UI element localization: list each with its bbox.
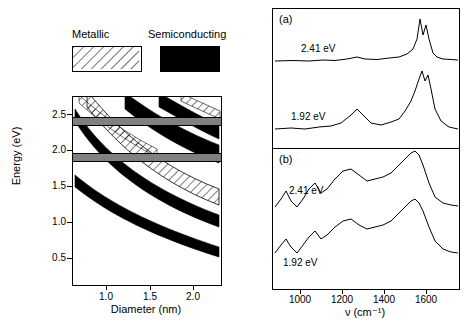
raman-xaxis-label: ν (cm⁻¹) (272, 306, 458, 319)
legend-metallic-swatch (72, 46, 142, 72)
raman-xtick-1600: 1600 (413, 294, 439, 305)
xtick-2.0: 2.0 (180, 291, 206, 302)
kataura-plot-panel: Metallic Semiconducting 2.5 2.0 1.5 1.0 … (0, 0, 232, 331)
kataura-xaxis-label: Diameter (nm) (72, 303, 220, 315)
xtick-1.0: 1.0 (93, 291, 119, 302)
panel-a-trace-label-241: 2.41 eV (301, 43, 335, 54)
laser-line-1.92eV (73, 153, 221, 162)
raman-panel-a: (a) 2.41 eV 1.92 eV (272, 8, 460, 150)
raman-xtick-1200: 1200 (329, 294, 355, 305)
kataura-plot-area (72, 96, 222, 286)
raman-spectra-panel: Raman intensity (arb. units) (a) 2.41 eV… (236, 0, 466, 331)
ytick-0.5: 0.5 (40, 252, 66, 263)
ytick-2.5: 2.5 (40, 109, 66, 120)
legend-semiconducting-swatch (160, 46, 220, 72)
panel-a-trace-label-192: 1.92 eV (291, 111, 325, 122)
ytick-1.5: 1.5 (40, 180, 66, 191)
figure-root: Metallic Semiconducting 2.5 2.0 1.5 1.0 … (0, 0, 466, 331)
raman-xtick-1400: 1400 (371, 294, 397, 305)
raman-xtick-1000: 1000 (287, 294, 313, 305)
panel-a-letter: (a) (279, 13, 292, 25)
raman-panel-a-curves (273, 9, 459, 149)
ytick-2.0: 2.0 (40, 144, 66, 155)
raman-panel-b-curves (273, 149, 459, 289)
raman-panel-b: (b) 2.41 eV 1.92 eV (272, 148, 460, 290)
laser-line-2.41eV (73, 117, 221, 126)
kataura-yaxis-label: Energy (eV) (10, 96, 22, 216)
panel-b-trace-label-241: 2.41 eV (289, 185, 323, 196)
panel-b-trace-label-192: 1.92 eV (283, 257, 317, 268)
xtick-1.5: 1.5 (137, 291, 163, 302)
legend-semiconducting-label: Semiconducting (148, 28, 226, 40)
panel-b-letter: (b) (279, 153, 292, 165)
ytick-1.0: 1.0 (40, 216, 66, 227)
legend-metallic-label: Metallic (72, 28, 109, 40)
